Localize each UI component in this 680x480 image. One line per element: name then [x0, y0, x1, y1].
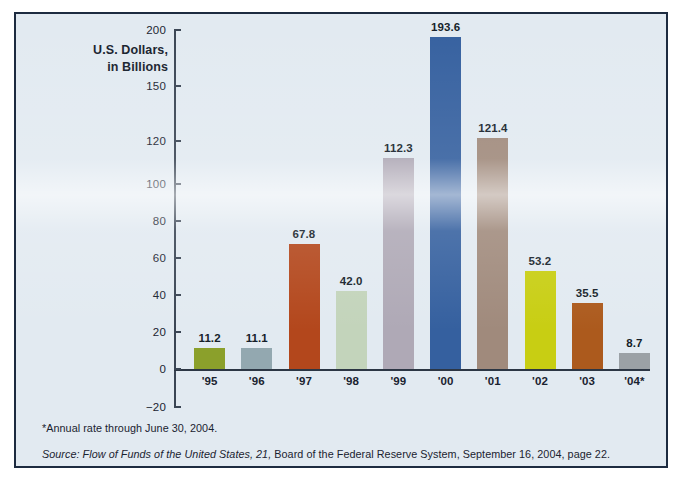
plot-area: U.S. Dollars, in Billions −2002040608010… [16, 14, 670, 470]
bar-00[interactable] [430, 37, 461, 369]
y-tick-label: 200 [122, 24, 166, 36]
y-tick-mark [174, 368, 181, 370]
bar-03[interactable] [572, 303, 603, 369]
bar-value-label: 53.2 [510, 255, 569, 267]
y-tick-mark [174, 183, 181, 185]
y-tick-label: 40 [122, 289, 166, 301]
bar-02[interactable] [525, 271, 556, 369]
bar-96[interactable] [241, 348, 272, 369]
y-tick-label: 120 [122, 135, 166, 147]
bar-value-label: 42.0 [322, 275, 381, 287]
y-tick-label: 20 [122, 326, 166, 338]
bar-97[interactable] [289, 244, 320, 369]
chart-frame: U.S. Dollars, in Billions −2002040608010… [14, 12, 668, 468]
source-citation-rest: Board of the Federal Reserve System, Sep… [271, 448, 610, 460]
footnote-annual-rate: *Annual rate through June 30, 2004. [42, 422, 217, 434]
y-tick-mark [174, 406, 181, 408]
bar-value-label: 35.5 [558, 287, 617, 299]
y-tick-label: 0 [122, 363, 166, 375]
y-tick-mark [174, 140, 181, 142]
bar-value-label: 11.1 [227, 332, 286, 344]
y-tick-mark [174, 85, 181, 87]
y-axis-title: U.S. Dollars, in Billions [36, 42, 168, 75]
bar-value-label: 67.8 [274, 228, 333, 240]
y-tick-label: −20 [122, 401, 166, 413]
y-tick-label: 100 [122, 178, 166, 190]
bar-value-label: 112.3 [369, 142, 428, 154]
y-tick-label: 60 [122, 252, 166, 264]
bar-99[interactable] [383, 158, 414, 369]
y-tick-mark [174, 220, 181, 222]
y-tick-mark [174, 29, 181, 31]
x-axis-line [174, 369, 650, 371]
bar-04[interactable] [619, 353, 650, 369]
source-citation-italic: Source: Flow of Funds of the United Stat… [42, 448, 271, 460]
footnote-source: Source: Flow of Funds of the United Stat… [42, 448, 610, 460]
bar-95[interactable] [194, 348, 225, 369]
bar-value-label: 193.6 [416, 21, 475, 33]
y-tick-mark [174, 257, 181, 259]
chart-figure: U.S. Dollars, in Billions −2002040608010… [0, 0, 680, 480]
bar-01[interactable] [477, 138, 508, 369]
y-tick-mark [174, 294, 181, 296]
y-tick-label: 150 [122, 80, 166, 92]
y-tick-label: 80 [122, 215, 166, 227]
bar-98[interactable] [336, 291, 367, 369]
x-tick-label-04: '04* [605, 375, 664, 387]
bar-value-label: 8.7 [605, 337, 664, 349]
bar-value-label: 121.4 [463, 122, 522, 134]
